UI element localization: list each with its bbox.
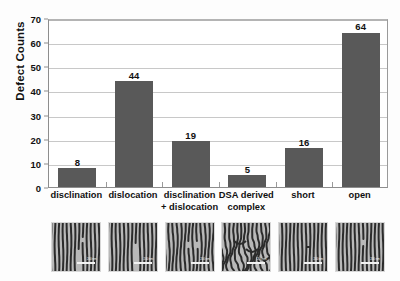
bar[interactable]	[172, 141, 210, 187]
y-tick-label: 70	[13, 14, 41, 25]
bar-slot: 8	[49, 20, 106, 187]
y-tick-label: 0	[13, 183, 41, 194]
bar-slot: 44	[106, 20, 163, 187]
defect-counts-figure: Defect Counts 010203040506070 8441951664…	[0, 0, 400, 281]
bar-slot: 64	[332, 20, 389, 187]
scale-bar-label: 200 nm	[370, 257, 379, 261]
scale-bar-label: 200 nm	[200, 257, 209, 261]
plot-area: 8441951664	[48, 19, 388, 188]
scale-bar-label: 200 nm	[87, 257, 96, 261]
bar[interactable]	[342, 33, 380, 188]
x-axis-label: open	[323, 190, 396, 202]
bar[interactable]	[115, 81, 153, 187]
scale-bar-label: 200 nm	[257, 257, 266, 261]
scale-bar-label: 200 nm	[144, 257, 153, 261]
bar-value-label: 19	[185, 130, 196, 141]
bar[interactable]	[285, 148, 323, 187]
micrograph-disclination: 200 nm	[51, 222, 101, 272]
micrograph-dsa-derived-complex: 200 nm	[221, 222, 271, 272]
y-tick-label: 50	[13, 62, 41, 73]
category-divider	[106, 182, 107, 187]
bar-slot: 16	[276, 20, 333, 187]
bar-value-label: 44	[129, 70, 140, 81]
bar[interactable]	[58, 168, 96, 187]
y-axis-ticks: 010203040506070	[0, 19, 48, 188]
bar-value-label: 5	[245, 164, 250, 175]
x-axis-label-line2: complex	[210, 202, 283, 214]
bar-value-label: 8	[75, 157, 80, 168]
scale-bar	[134, 262, 152, 264]
y-tick-label: 30	[13, 110, 41, 121]
scale-bar	[247, 262, 265, 264]
x-axis-label-line1: open	[323, 190, 396, 202]
bar-slot: 5	[219, 20, 276, 187]
y-tick-label: 20	[13, 134, 41, 145]
scale-bar	[191, 262, 209, 264]
bar[interactable]	[228, 175, 266, 187]
micrograph-short: 200 nm	[278, 222, 328, 272]
category-divider	[219, 182, 220, 187]
y-tick-label: 60	[13, 38, 41, 49]
bar-slot: 19	[162, 20, 219, 187]
x-axis-labels: disclinationdislocationdisclination+ dis…	[48, 190, 388, 218]
bar-value-label: 64	[355, 21, 366, 32]
category-divider	[276, 182, 277, 187]
micrograph-open: 200 nm	[335, 222, 385, 272]
y-tick-label: 40	[13, 86, 41, 97]
micrograph-disclination-dislocation: 200 nm	[165, 222, 215, 272]
micrograph-dislocation: 200 nm	[108, 222, 158, 272]
category-divider	[162, 182, 163, 187]
category-divider	[332, 182, 333, 187]
y-tick-label: 10	[13, 158, 41, 169]
micrograph-row: 200 nm200 nm200 nm200 nm200 nm200 nm	[48, 222, 388, 274]
scale-bar-label: 200 nm	[314, 257, 323, 261]
scale-bar	[77, 262, 95, 264]
scale-bar	[361, 262, 379, 264]
scale-bar	[304, 262, 322, 264]
bar-value-label: 16	[299, 137, 310, 148]
